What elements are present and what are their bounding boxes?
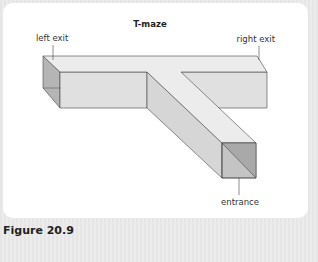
diagram-title: T-maze [133, 19, 167, 29]
right-exit-label: right exit [237, 34, 276, 44]
entrance-label: entrance [221, 197, 259, 207]
t-maze-diagram: T-maze left exit right exit entrance [0, 0, 317, 262]
left-arm-front-face [60, 72, 147, 108]
figure-caption: Figure 20.9 [3, 224, 74, 237]
left-exit-label: left exit [36, 33, 69, 43]
